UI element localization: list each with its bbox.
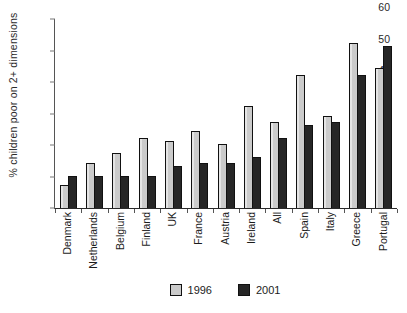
bar-group-greece: [344, 19, 370, 208]
bar-2001-ireland: [252, 157, 261, 208]
bar-group-netherlands: [81, 19, 107, 208]
x-label-cell-all: All: [265, 212, 291, 286]
x-label-ireland: Ireland: [246, 212, 257, 244]
bar-group-denmark: [55, 19, 81, 208]
x-label-cell-belgium: Belgium: [107, 212, 133, 286]
bar-2001-france: [199, 163, 208, 208]
bar-2001-netherlands: [94, 176, 103, 209]
bar-2001-denmark: [68, 176, 77, 209]
bar-group-portugal: [371, 19, 397, 208]
bar-group-france: [187, 19, 213, 208]
bar-group-belgium: [108, 19, 134, 208]
x-axis-category-labels: DenmarkNetherlandsBelgiumFinlandUKFrance…: [54, 212, 396, 286]
bar-2001-portugal: [383, 46, 392, 208]
bar-group-finland: [134, 19, 160, 208]
bar-group-uk: [160, 19, 186, 208]
bar-2001-italy: [331, 122, 340, 208]
x-label-cell-spain: Spain: [291, 212, 317, 286]
x-label-cell-portugal: Portugal: [370, 212, 396, 286]
x-label-cell-uk: UK: [159, 212, 185, 286]
bar-group-ireland: [239, 19, 265, 208]
bar-group-austria: [213, 19, 239, 208]
x-label-finland: Finland: [141, 212, 152, 246]
x-label-netherlands: Netherlands: [88, 212, 99, 269]
x-label-portugal: Portugal: [378, 212, 389, 251]
bar-2001-austria: [226, 163, 235, 208]
bar-2001-belgium: [120, 176, 129, 209]
x-label-austria: Austria: [220, 212, 231, 245]
x-label-denmark: Denmark: [62, 212, 73, 255]
legend-label-2001: 2001: [256, 284, 280, 296]
plot-area: 0102030405060: [54, 19, 397, 209]
x-label-cell-austria: Austria: [212, 212, 238, 286]
x-label-cell-denmark: Denmark: [54, 212, 80, 286]
x-label-cell-ireland: Ireland: [238, 212, 264, 286]
x-label-cell-greece: Greece: [343, 212, 369, 286]
x-label-spain: Spain: [299, 212, 310, 239]
x-label-cell-netherlands: Netherlands: [80, 212, 106, 286]
x-label-france: France: [193, 212, 204, 245]
x-label-cell-italy: Italy: [317, 212, 343, 286]
bar-group-spain: [292, 19, 318, 208]
x-label-greece: Greece: [351, 212, 362, 246]
x-tick-13: [397, 209, 398, 213]
legend-swatch-2001: [238, 284, 250, 296]
legend-swatch-1996: [170, 284, 182, 296]
bar-2001-finland: [147, 176, 156, 209]
bar-group-italy: [318, 19, 344, 208]
bar-group-all: [266, 19, 292, 208]
bar-chart-figure: % children poor on 2+ dimensions 0102030…: [0, 0, 407, 313]
x-label-cell-france: France: [186, 212, 212, 286]
x-label-uk: UK: [167, 212, 178, 227]
bars-area: [55, 19, 397, 208]
bar-2001-greece: [357, 75, 366, 208]
legend-label-1996: 1996: [188, 284, 212, 296]
x-label-cell-finland: Finland: [133, 212, 159, 286]
legend: 1996 2001: [54, 284, 396, 296]
legend-item-2001: 2001: [238, 284, 280, 296]
bar-2001-all: [278, 138, 287, 208]
legend-item-1996: 1996: [170, 284, 212, 296]
x-label-belgium: Belgium: [115, 212, 126, 250]
bar-2001-spain: [304, 125, 313, 208]
bar-2001-uk: [173, 166, 182, 208]
x-label-all: All: [272, 212, 283, 224]
y-tick-label-60: 60: [368, 1, 390, 13]
x-label-italy: Italy: [325, 212, 336, 231]
y-axis-title: % children poor on 2+ dimensions: [7, 5, 21, 185]
